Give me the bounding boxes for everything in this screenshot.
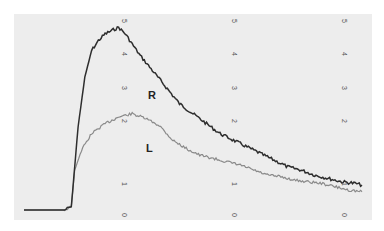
y-tick-label: 3 <box>231 86 238 90</box>
y-tick-label: 2 <box>341 119 348 123</box>
series-r-line <box>24 27 362 210</box>
y-tick-label: 5 <box>341 19 348 23</box>
y-tick-label: 3 <box>121 86 128 90</box>
y-tick-label: 0 <box>121 213 128 217</box>
y-tick-label: 4 <box>121 52 128 56</box>
y-tick-label: 0 <box>341 213 348 217</box>
y-tick-label: 1 <box>231 182 238 186</box>
y-axis-ticks: 012345012345012345 <box>121 19 348 217</box>
series-r-label: R <box>148 89 156 101</box>
y-tick-label: 1 <box>121 182 128 186</box>
y-tick-label: 0 <box>231 213 238 217</box>
y-tick-label: 5 <box>231 19 238 23</box>
y-tick-label: 4 <box>341 52 348 56</box>
y-tick-label: 5 <box>121 19 128 23</box>
y-tick-label: 3 <box>341 86 348 90</box>
line-chart: 012345012345012345 R L <box>0 0 384 231</box>
series-l-label: L <box>146 142 153 154</box>
y-tick-label: 2 <box>231 119 238 123</box>
y-tick-label: 4 <box>231 52 238 56</box>
y-tick-label: 2 <box>121 119 128 123</box>
